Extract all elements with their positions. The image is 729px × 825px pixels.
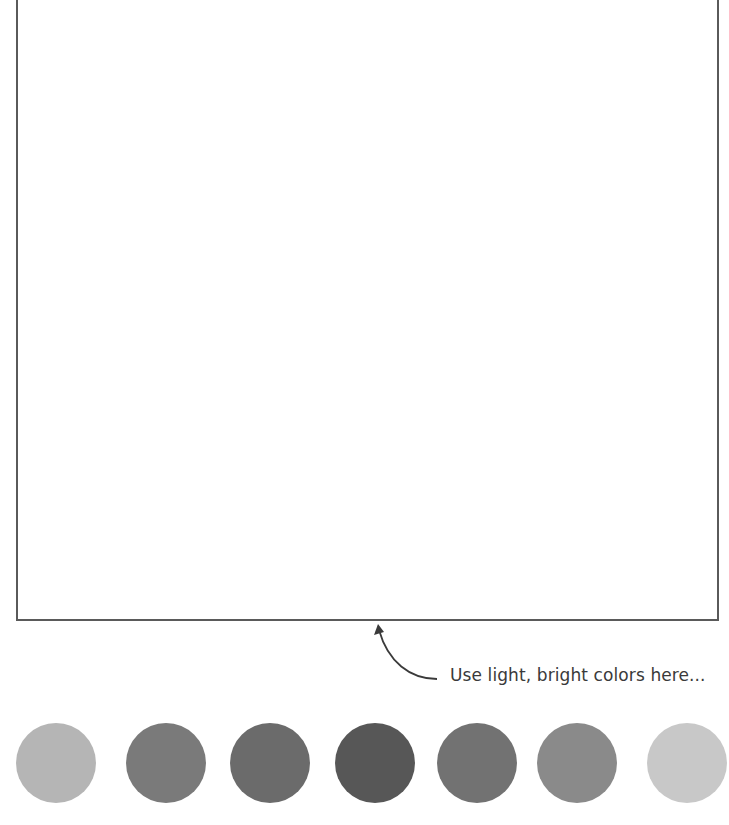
color-swatch-4[interactable] (335, 723, 415, 803)
color-swatch-2[interactable] (126, 723, 206, 803)
color-swatch-1[interactable] (16, 723, 96, 803)
color-swatch-5[interactable] (437, 723, 517, 803)
color-swatch-6[interactable] (537, 723, 617, 803)
drawing-canvas[interactable] (16, 0, 719, 621)
color-swatch-3[interactable] (230, 723, 310, 803)
hint-text: Use light, bright colors here... (450, 665, 706, 685)
color-swatch-7[interactable] (647, 723, 727, 803)
